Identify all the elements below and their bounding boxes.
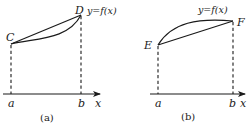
- caption-b: (b): [181, 111, 195, 122]
- tick-label-b-b: b: [229, 97, 236, 110]
- point-label-e: E: [143, 39, 152, 52]
- tick-label-b-a: a: [155, 97, 162, 110]
- point-label-f: F: [236, 16, 245, 29]
- axis-label-x-b: x: [240, 97, 247, 110]
- function-label-a: y=f(x): [86, 5, 117, 16]
- figure: C D y=f(x) a b x (a) E F y=f(x) a b x (b…: [0, 0, 249, 127]
- tick-label-a-a: a: [8, 97, 15, 110]
- point-label-c: C: [6, 31, 15, 44]
- tick-label-a-b: b: [78, 97, 85, 110]
- axis-label-x-a: x: [95, 97, 102, 110]
- chord-cd: [11, 15, 81, 44]
- panel-b: E F y=f(x) a b x (b): [143, 4, 247, 122]
- panel-a: C D y=f(x) a b x (a): [3, 4, 117, 123]
- function-label-b: y=f(x): [197, 4, 228, 15]
- caption-a: (a): [40, 112, 54, 123]
- point-label-d: D: [74, 4, 84, 17]
